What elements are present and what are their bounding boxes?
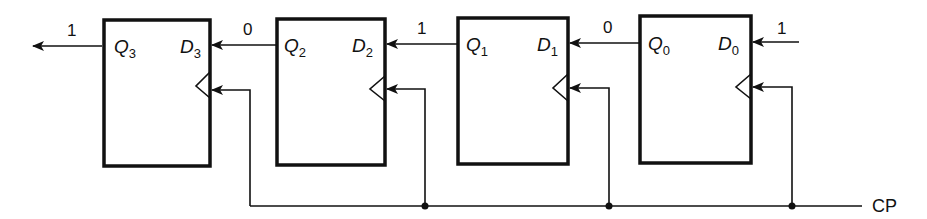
clock-wires — [212, 87, 862, 206]
d0-label: D — [718, 33, 732, 54]
svg-text:Q1: Q1 — [466, 34, 488, 59]
clock-ff3-arrow-icon — [212, 90, 250, 206]
q3-label: Q — [114, 36, 129, 57]
svg-text:D0: D0 — [718, 33, 739, 58]
clock-triangle-icon — [553, 74, 568, 101]
flip-flop-0: Q0 D0 — [640, 16, 751, 163]
q1-label: Q — [466, 34, 481, 55]
svg-text:Q0: Q0 — [648, 33, 670, 58]
flip-flop-3: Q3 D3 — [104, 20, 210, 166]
input-d0-value: 1 — [777, 19, 786, 38]
clock-triangle-icon — [736, 74, 751, 99]
d3-label: D — [180, 36, 194, 57]
svg-text:Q2: Q2 — [284, 35, 306, 60]
q2-label: Q — [284, 35, 299, 56]
d1-label: D — [537, 34, 551, 55]
shift-register-diagram: Q3 D3 Q2 D2 Q1 D1 Q0 D0 1 0 1 0 1 — [0, 0, 927, 219]
svg-text:Q3: Q3 — [114, 36, 136, 61]
q2-to-d3-value: 0 — [243, 20, 252, 39]
svg-text:D3: D3 — [180, 36, 201, 61]
junction-dot-icon — [422, 203, 429, 210]
clock-triangle-icon — [196, 72, 210, 98]
clock-label: CP — [872, 196, 897, 216]
clock-ff0-arrow-icon — [753, 87, 792, 206]
clock-ff1-arrow-icon — [570, 88, 609, 206]
data-wires — [33, 42, 799, 46]
d2-label: D — [352, 35, 366, 56]
q1-to-d2-value: 1 — [417, 19, 426, 38]
output-q3-value: 1 — [67, 21, 76, 40]
q0-to-d1-value: 0 — [603, 18, 612, 37]
junction-dot-icon — [606, 203, 613, 210]
clock-ff2-arrow-icon — [387, 89, 425, 206]
svg-text:D1: D1 — [537, 34, 558, 59]
junction-dot-icon — [789, 203, 796, 210]
q0-label: Q — [648, 33, 663, 54]
svg-text:D2: D2 — [352, 35, 373, 60]
clock-triangle-icon — [370, 76, 385, 101]
flip-flop-1: Q1 D1 — [458, 18, 568, 164]
flip-flop-2: Q2 D2 — [277, 19, 385, 165]
